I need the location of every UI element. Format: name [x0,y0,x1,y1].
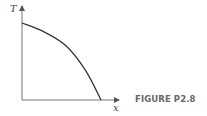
y-axis-label: T [10,3,18,14]
series-line-0 [22,23,101,100]
x-axis-label: x [113,102,119,113]
figure-caption: FIGURE P2.8 [135,94,196,104]
